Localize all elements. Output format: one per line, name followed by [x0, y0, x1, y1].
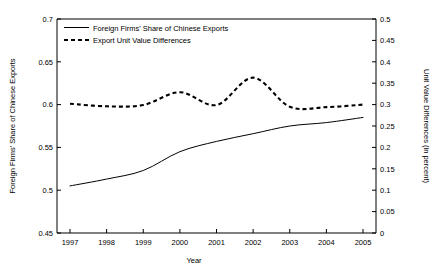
y-tick-label-left: 0.65: [38, 58, 53, 67]
x-tick-label: 2004: [318, 238, 335, 247]
y-tick-label-right: 0.45: [380, 36, 395, 45]
y-tick-label-right: 0.1: [380, 186, 390, 195]
x-tick-label: 2003: [281, 238, 298, 247]
y-tick-label-left: 0.45: [38, 229, 53, 238]
x-tick-label: 1998: [98, 238, 115, 247]
x-axis-ticks: [70, 229, 363, 233]
y-tick-label-right: 0.4: [380, 58, 390, 67]
x-tick-label: 2001: [208, 238, 225, 247]
y-tick-label-right: 0.2: [380, 143, 390, 152]
legend: Foreign Firms' Share of Chinese Exports …: [64, 24, 228, 46]
y-tick-label-right: 0.35: [380, 79, 395, 88]
x-tick-label: 2000: [172, 238, 189, 247]
y-tick-label-left: 0.6: [43, 100, 53, 109]
x-tick-label: 1999: [135, 238, 152, 247]
y-axis-left-title: Foreign Firms' Share of Chinese Exports: [8, 58, 17, 193]
series-line-export-unit-value-differences: [70, 78, 363, 109]
y-tick-label-right: 0.3: [380, 100, 390, 109]
y-axis-right-ticks: [372, 19, 376, 233]
y-tick-label-right: 0.5: [380, 15, 390, 24]
x-tick-label: 1997: [62, 238, 79, 247]
series-line-foreign-firms-share: [70, 117, 363, 185]
y-axis-left-labels: 0.450.50.550.60.650.7: [38, 15, 53, 238]
y-tick-label-left: 0.5: [43, 186, 53, 195]
x-axis-labels: 199719981999200020012002200320042005: [62, 238, 372, 247]
y-axis-right-title: Unit Value Differences (in percent): [422, 69, 431, 183]
y-tick-label-left: 0.55: [38, 143, 53, 152]
y-axis-right-labels: 00.050.10.150.20.250.30.350.40.450.5: [380, 15, 395, 238]
legend-label-foreign-firms-share: Foreign Firms' Share of Chinese Exports: [93, 24, 228, 33]
x-tick-label: 2005: [355, 238, 372, 247]
y-tick-label-right: 0.25: [380, 122, 395, 131]
chart-canvas: 0.450.50.550.60.650.7 00.050.10.150.20.2…: [0, 0, 434, 278]
x-tick-label: 2002: [245, 238, 262, 247]
plot-frame: [57, 19, 376, 233]
y-tick-label-right: 0.05: [380, 207, 395, 216]
y-tick-label-right: 0.15: [380, 165, 395, 174]
y-tick-label-right: 0: [380, 229, 384, 238]
legend-label-export-unit-value-differences: Export Unit Value Differences: [93, 36, 191, 45]
y-tick-label-left: 0.7: [43, 15, 53, 24]
y-axis-left-ticks: [57, 19, 61, 233]
chart-figure: 0.450.50.550.60.650.7 00.050.10.150.20.2…: [0, 0, 434, 278]
x-axis-title: Year: [186, 256, 202, 265]
